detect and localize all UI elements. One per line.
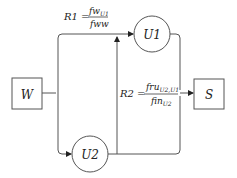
node-s: S bbox=[194, 79, 224, 109]
svg-text:fwU1: fwU1 bbox=[88, 6, 109, 17]
node-w-label: W bbox=[21, 88, 35, 102]
ratio-r2-denominator-sub: U2 bbox=[163, 100, 172, 107]
svg-text:finU2: finU2 bbox=[150, 96, 172, 107]
node-u1: U1 bbox=[134, 16, 170, 52]
ratio-r1-numerator-sub: U1 bbox=[100, 10, 109, 17]
edge-u2-u1 bbox=[108, 37, 117, 154]
ratio-r2-numerator-sub: U2,U1 bbox=[159, 86, 179, 93]
edge-w-u1 bbox=[58, 34, 133, 93]
node-u1-label: U1 bbox=[143, 28, 161, 42]
ratio-r2-name: R2 = bbox=[119, 88, 145, 99]
edge-w-u2 bbox=[58, 93, 71, 154]
ratio-r1-denominator: fww bbox=[89, 19, 109, 29]
edge-u1-s bbox=[170, 34, 180, 90]
node-u2-label: U2 bbox=[81, 148, 99, 162]
flow-diagram: W S U1 U2 R1 = fwU1 fww R2 bbox=[0, 0, 237, 178]
ratio-r2: R2 = fruU2,U1 finU2 bbox=[119, 82, 179, 107]
ratio-r1-numerator: fw bbox=[88, 6, 100, 16]
node-w: W bbox=[12, 78, 42, 109]
ratio-r1-name: R1 = bbox=[63, 11, 89, 22]
node-s-label: S bbox=[205, 88, 213, 102]
svg-text:fruU2,U1: fruU2,U1 bbox=[145, 82, 179, 93]
ratio-r2-denominator: fin bbox=[150, 96, 163, 106]
ratio-r2-numerator: fru bbox=[145, 82, 160, 92]
ratio-r1: R1 = fwU1 fww bbox=[63, 6, 109, 29]
node-u2: U2 bbox=[72, 136, 108, 172]
